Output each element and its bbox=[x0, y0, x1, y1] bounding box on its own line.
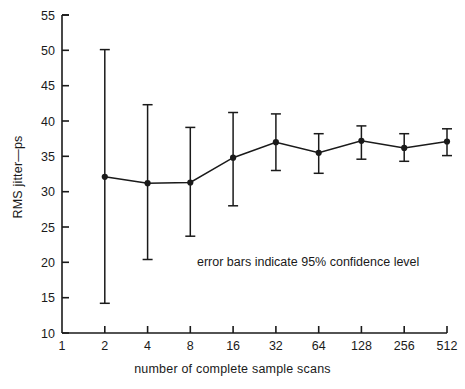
x-tick-label: 32 bbox=[269, 339, 283, 353]
y-tick-label: 45 bbox=[41, 79, 55, 93]
data-point-marker bbox=[316, 150, 322, 156]
data-point-marker bbox=[230, 155, 236, 161]
data-point-marker bbox=[273, 139, 279, 145]
y-tick-label: 20 bbox=[41, 256, 55, 270]
axis-spines bbox=[62, 15, 447, 333]
chart-annotations: error bars indicate 95% confidence level bbox=[197, 255, 419, 269]
x-tick-label: 1 bbox=[59, 339, 66, 353]
x-tick-label: 8 bbox=[187, 339, 194, 353]
data-point-marker bbox=[187, 179, 193, 185]
data-point-marker bbox=[444, 138, 450, 144]
x-tick-label: 64 bbox=[312, 339, 326, 353]
data-point-marker bbox=[145, 180, 151, 186]
x-tick-label: 16 bbox=[226, 339, 240, 353]
x-tick-label: 4 bbox=[144, 339, 151, 353]
y-tick-label: 30 bbox=[41, 185, 55, 199]
data-point-marker bbox=[102, 174, 108, 180]
plot-area: 10152025303540455055 1248163264128256512… bbox=[0, 0, 465, 389]
y-tick-label: 25 bbox=[41, 221, 55, 235]
y-tick-label: 15 bbox=[41, 291, 55, 305]
y-tick-label: 35 bbox=[41, 150, 55, 164]
y-axis-ticks: 10152025303540455055 bbox=[41, 9, 69, 341]
x-tick-label: 128 bbox=[351, 339, 372, 353]
y-tick-label: 50 bbox=[41, 44, 55, 58]
x-tick-label: 256 bbox=[394, 339, 415, 353]
x-tick-label: 2 bbox=[101, 339, 108, 353]
y-tick-label: 55 bbox=[41, 9, 55, 23]
y-tick-label: 40 bbox=[41, 115, 55, 129]
data-point-marker bbox=[401, 145, 407, 151]
y-tick-label: 10 bbox=[41, 327, 55, 341]
error-bar-note: error bars indicate 95% confidence level bbox=[197, 255, 419, 269]
x-axis-ticks: 1248163264128256512 bbox=[59, 326, 458, 353]
chart-container: RMS jitter—ps number of complete sample … bbox=[0, 0, 465, 389]
x-tick-label: 512 bbox=[437, 339, 458, 353]
data-point-marker bbox=[358, 138, 364, 144]
